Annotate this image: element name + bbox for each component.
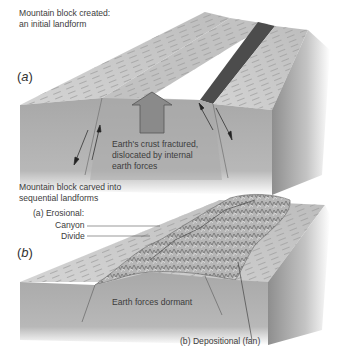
depositional-fan-label: (b) Depositional (fan) bbox=[180, 336, 260, 347]
front-face-b bbox=[20, 272, 268, 345]
canyon-label: Canyon bbox=[55, 220, 85, 231]
erosional-heading: (a) Erosional: bbox=[33, 208, 84, 219]
panel-a-caption-line2: an initial landform bbox=[19, 19, 86, 30]
panel-b-caption-line2: sequential landforms bbox=[19, 193, 98, 204]
initial-landform-block bbox=[20, 12, 330, 195]
panel-b-caption-line1: Mountain block carved into bbox=[19, 182, 121, 193]
panel-b-label: (b) bbox=[17, 245, 33, 260]
divide-label: Divide bbox=[61, 231, 85, 242]
panel-a-annotation-line1: Earth's crust fractured, bbox=[112, 139, 198, 150]
panel-a-label: (a) bbox=[17, 69, 33, 84]
panel-a-annotation-line3: earth forces bbox=[112, 161, 157, 172]
earth-forces-dormant-label: Earth forces dormant bbox=[112, 297, 192, 308]
panel-a-caption-line1: Mountain block created: bbox=[19, 8, 110, 19]
panel-a-annotation-line2: dislocated by internal bbox=[112, 150, 193, 161]
